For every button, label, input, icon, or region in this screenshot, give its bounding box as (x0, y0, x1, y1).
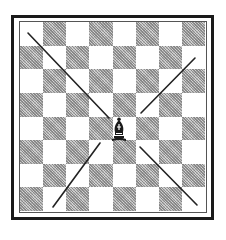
board-square (89, 46, 112, 70)
board-square (159, 164, 182, 188)
board-square (182, 93, 205, 117)
board-square (113, 140, 136, 164)
board-square (136, 46, 159, 70)
board-square (159, 46, 182, 70)
board-square (43, 69, 66, 93)
board-square (89, 187, 112, 211)
board-square (159, 69, 182, 93)
board-square (136, 69, 159, 93)
board-square (66, 117, 89, 141)
bishop-piece-icon (110, 117, 128, 143)
board-square (182, 69, 205, 93)
board-square (43, 187, 66, 211)
board-square (66, 164, 89, 188)
board-square (43, 22, 66, 46)
board-square (182, 46, 205, 70)
board-square (43, 117, 66, 141)
board-square (113, 93, 136, 117)
board-square (113, 69, 136, 93)
board-square (20, 187, 43, 211)
board-square (136, 117, 159, 141)
board-square (20, 164, 43, 188)
board-square (66, 93, 89, 117)
board-square (66, 22, 89, 46)
board-square (159, 117, 182, 141)
board-square (113, 164, 136, 188)
board-square (20, 69, 43, 93)
board-square (136, 164, 159, 188)
board-square (182, 164, 205, 188)
board-square (89, 22, 112, 46)
board-square (20, 140, 43, 164)
board-square (136, 187, 159, 211)
board-square (159, 187, 182, 211)
board-square (66, 187, 89, 211)
board-square (66, 140, 89, 164)
board-square (182, 187, 205, 211)
board-square (43, 140, 66, 164)
board-square (159, 93, 182, 117)
board-square (20, 46, 43, 70)
board-square (43, 164, 66, 188)
board-square (136, 93, 159, 117)
board-square (113, 187, 136, 211)
board-square (89, 93, 112, 117)
board-square (20, 93, 43, 117)
board-square (113, 46, 136, 70)
board-square (182, 140, 205, 164)
board-square (113, 22, 136, 46)
board-square (89, 164, 112, 188)
board-square (20, 117, 43, 141)
board-square (89, 69, 112, 93)
board-square (66, 69, 89, 93)
board-square (159, 22, 182, 46)
board-square (136, 22, 159, 46)
board-square (182, 117, 205, 141)
board-square (136, 140, 159, 164)
board-square (182, 22, 205, 46)
board-square (43, 46, 66, 70)
board-square (89, 140, 112, 164)
board-square (43, 93, 66, 117)
board-square (20, 22, 43, 46)
board-square (66, 46, 89, 70)
board-square (159, 140, 182, 164)
